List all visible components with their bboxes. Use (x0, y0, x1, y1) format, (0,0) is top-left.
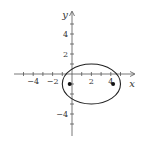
x-tick-label: −2 (47, 77, 59, 86)
y-axis-label: y (61, 9, 68, 20)
x-tick-label: 2 (89, 77, 94, 86)
x-tick-label: −4 (27, 77, 39, 86)
focus-point-right (111, 82, 115, 86)
focus-point-left (68, 82, 72, 86)
y-tick-label: −4 (56, 110, 68, 119)
y-tick-label: 2 (63, 50, 68, 59)
y-axis (70, 11, 75, 136)
ellipse-plot: −4 −2 2 4 4 2 −4 x y (0, 0, 144, 144)
x-axis-label: x (129, 78, 135, 89)
y-tick-label: 4 (63, 30, 68, 39)
